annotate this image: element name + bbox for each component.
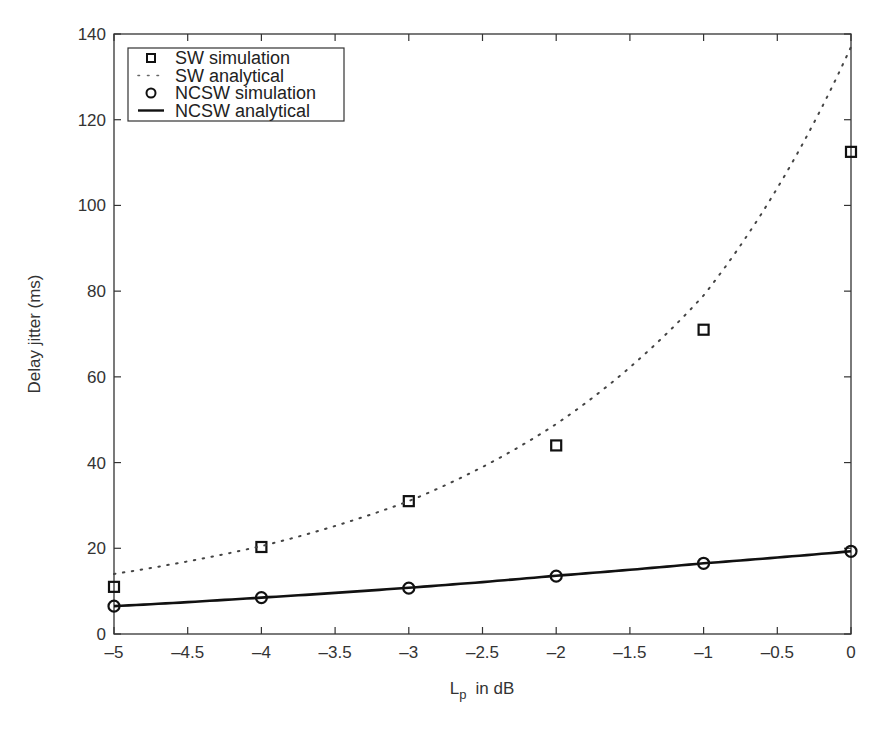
x-tick-label: –3.5 xyxy=(319,643,352,662)
legend-label: NCSW analytical xyxy=(175,101,310,121)
plot-frame xyxy=(114,34,851,634)
y-tick-label: 40 xyxy=(87,454,106,473)
y-tick-label: 60 xyxy=(87,368,106,387)
y-tick-label: 140 xyxy=(78,25,106,44)
x-tick-label: –0.5 xyxy=(761,643,794,662)
delay-jitter-chart: –5–4.5–4–3.5–3–2.5–2–1.5–1–0.50020406080… xyxy=(0,0,896,737)
series-sw-simulation xyxy=(109,147,856,592)
x-tick-label: –2.5 xyxy=(466,643,499,662)
y-axis-label: Delay jitter (ms) xyxy=(25,274,44,393)
plot-border xyxy=(114,34,851,634)
square-marker xyxy=(699,325,709,335)
legend: SW simulationSW analyticalNCSW simulatio… xyxy=(128,48,344,121)
square-marker xyxy=(551,440,561,450)
x-tick-label: 0 xyxy=(846,643,855,662)
y-tick-label: 120 xyxy=(78,111,106,130)
x-tick-label: –1.5 xyxy=(613,643,646,662)
x-tick-label: –4.5 xyxy=(171,643,204,662)
y-tick-label: 100 xyxy=(78,196,106,215)
x-tick-label: –5 xyxy=(105,643,124,662)
y-tick-label: 20 xyxy=(87,539,106,558)
x-tick-label: –3 xyxy=(399,643,418,662)
y-tick-label: 80 xyxy=(87,282,106,301)
x-axis-label-main: L xyxy=(450,679,459,698)
series-sw-analytical xyxy=(114,47,851,574)
series-layer xyxy=(109,47,857,612)
x-tick-label: –2 xyxy=(547,643,566,662)
x-tick-label: –4 xyxy=(252,643,271,662)
square-marker xyxy=(404,496,414,506)
series-ncsw-analytical xyxy=(114,551,851,606)
x-axis-label-rest: in dB xyxy=(475,679,514,698)
x-axis-label: Lpin dB xyxy=(450,679,514,702)
y-tick-label: 0 xyxy=(97,625,106,644)
x-axis-label-sub: p xyxy=(459,687,466,702)
x-tick-label: –1 xyxy=(694,643,713,662)
